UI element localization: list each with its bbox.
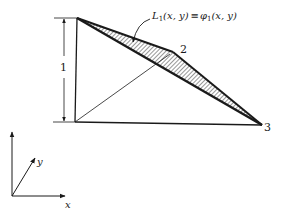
node-2-label: 2 <box>180 43 187 56</box>
x-axis-label: x <box>65 199 71 210</box>
height-label: 1 <box>60 61 67 74</box>
y-axis <box>12 158 35 196</box>
shape-function-surface <box>77 18 262 125</box>
y-axis-label: y <box>36 156 43 167</box>
node-3-label: 3 <box>264 121 271 134</box>
shape-function-diagram: 1 L1(x, y)≡φ1(x, y) 2 3 x y <box>0 0 282 220</box>
function-label: L1(x, y)≡φ1(x, y) <box>151 10 237 23</box>
